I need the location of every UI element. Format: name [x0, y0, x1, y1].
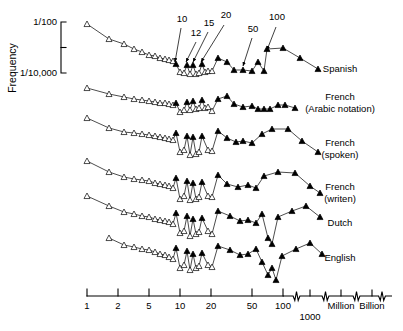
series-spanish: Spanish: [84, 21, 357, 77]
x-tick-label: 20: [206, 300, 217, 311]
series-label: (writen): [324, 193, 356, 204]
data-point-round-number: [265, 235, 271, 241]
data-point-round-number: [253, 246, 259, 252]
annotation-label: 50: [248, 23, 259, 34]
y-axis-label: Frequency: [6, 42, 18, 92]
data-point-round-number: [227, 213, 233, 219]
data-point-round-number: [224, 59, 230, 65]
data-point-round-number: [255, 59, 261, 65]
data-point-round-number: [199, 179, 205, 185]
data-point-round-number: [224, 135, 230, 141]
data-point-ordinary-number: [181, 193, 187, 199]
series-dutch: Dutch: [84, 193, 352, 247]
data-point-ordinary-number: [187, 152, 193, 158]
data-point-ordinary-number: [181, 107, 187, 113]
data-point-round-number: [215, 55, 221, 61]
data-point-round-number: [184, 133, 190, 139]
data-point-ordinary-number: [196, 194, 202, 200]
data-point-round-number: [279, 253, 285, 259]
data-point-ordinary-number: [187, 233, 193, 239]
annotation-label: 12: [191, 27, 202, 38]
data-point-ordinary-number: [121, 174, 127, 180]
annotation-label: 10: [177, 13, 188, 24]
x-tick-label: 1000: [299, 311, 320, 322]
x-tick-label: 1: [84, 300, 89, 311]
series-label: (Arabic notation): [305, 103, 375, 114]
series-group: SpanishFrench(Arabic notation)French(spo…: [84, 21, 375, 283]
series-label: English: [324, 252, 355, 263]
data-point-ordinary-number: [196, 229, 202, 235]
x-tick-label: 10: [175, 300, 186, 311]
data-point-round-number: [173, 210, 179, 216]
data-point-round-number: [224, 93, 230, 99]
data-point-ordinary-number: [121, 209, 127, 215]
y-axis: 1/100 1/10,000: [20, 16, 66, 78]
data-point-round-number: [292, 105, 298, 111]
data-point-round-number: [184, 178, 190, 184]
annotation-arrow: [243, 38, 252, 66]
data-point-round-number: [303, 203, 309, 209]
data-point-round-number: [273, 277, 279, 283]
data-point-round-number: [293, 246, 299, 252]
data-point-ordinary-number: [187, 267, 193, 273]
data-point-round-number: [199, 97, 205, 103]
data-point-round-number: [249, 103, 255, 109]
x-tick-label: 5: [146, 300, 151, 311]
data-point-ordinary-number: [181, 147, 187, 153]
annotation-12: 12: [186, 27, 201, 62]
data-point-round-number: [253, 185, 259, 191]
data-point-round-number: [269, 241, 275, 247]
data-point-round-number: [215, 128, 221, 134]
data-point-ordinary-number: [84, 193, 90, 199]
x-tick-label: Million: [328, 300, 355, 311]
data-point-round-number: [240, 138, 246, 144]
data-point-round-number: [269, 265, 275, 271]
data-point-round-number: [265, 272, 271, 278]
data-point-round-number: [307, 240, 313, 246]
data-point-round-number: [315, 149, 321, 155]
data-point-round-number: [199, 215, 205, 221]
series-label: French: [325, 181, 355, 192]
y-tick-label-top: 1/100: [33, 16, 57, 27]
data-point-round-number: [173, 100, 179, 106]
data-point-round-number: [315, 66, 321, 72]
data-point-round-number: [190, 180, 196, 186]
x-tick-label: 2: [115, 300, 120, 311]
x-tick-label: Billion: [359, 300, 384, 311]
series-label: Dutch: [328, 217, 353, 228]
data-point-round-number: [215, 172, 221, 178]
data-point-ordinary-number: [205, 228, 211, 234]
data-point-ordinary-number: [106, 125, 112, 131]
data-point-round-number: [215, 96, 221, 102]
data-point-round-number: [199, 61, 205, 67]
data-point-round-number: [245, 182, 251, 188]
data-point-round-number: [199, 250, 205, 256]
data-point-round-number: [173, 245, 179, 251]
annotation-arrow: [267, 27, 276, 50]
data-point-round-number: [184, 62, 190, 68]
series-english: English: [106, 235, 356, 283]
data-point-ordinary-number: [106, 169, 112, 175]
series-label: Spanish: [323, 63, 357, 74]
data-point-round-number: [259, 131, 265, 137]
data-point-ordinary-number: [146, 52, 152, 58]
data-point-round-number: [261, 68, 267, 74]
data-point-round-number: [184, 248, 190, 254]
data-point-ordinary-number: [84, 115, 90, 121]
x-axis: 1251020501001000MillionBillion: [84, 289, 392, 322]
data-point-round-number: [184, 99, 190, 105]
series-label: French: [325, 91, 355, 102]
data-point-round-number: [280, 45, 286, 51]
data-point-round-number: [215, 208, 221, 214]
data-point-round-number: [215, 243, 221, 249]
annotation-label: 100: [269, 11, 285, 22]
annotation-label: 15: [204, 17, 215, 28]
data-point-ordinary-number: [106, 235, 112, 241]
data-point-round-number: [190, 251, 196, 257]
data-point-ordinary-number: [152, 249, 158, 255]
annotation-100: 100: [267, 11, 285, 50]
data-point-ordinary-number: [106, 36, 112, 42]
data-point-ordinary-number: [84, 158, 90, 164]
data-point-ordinary-number: [121, 41, 127, 47]
y-axis-label-group: Frequency: [6, 42, 18, 92]
